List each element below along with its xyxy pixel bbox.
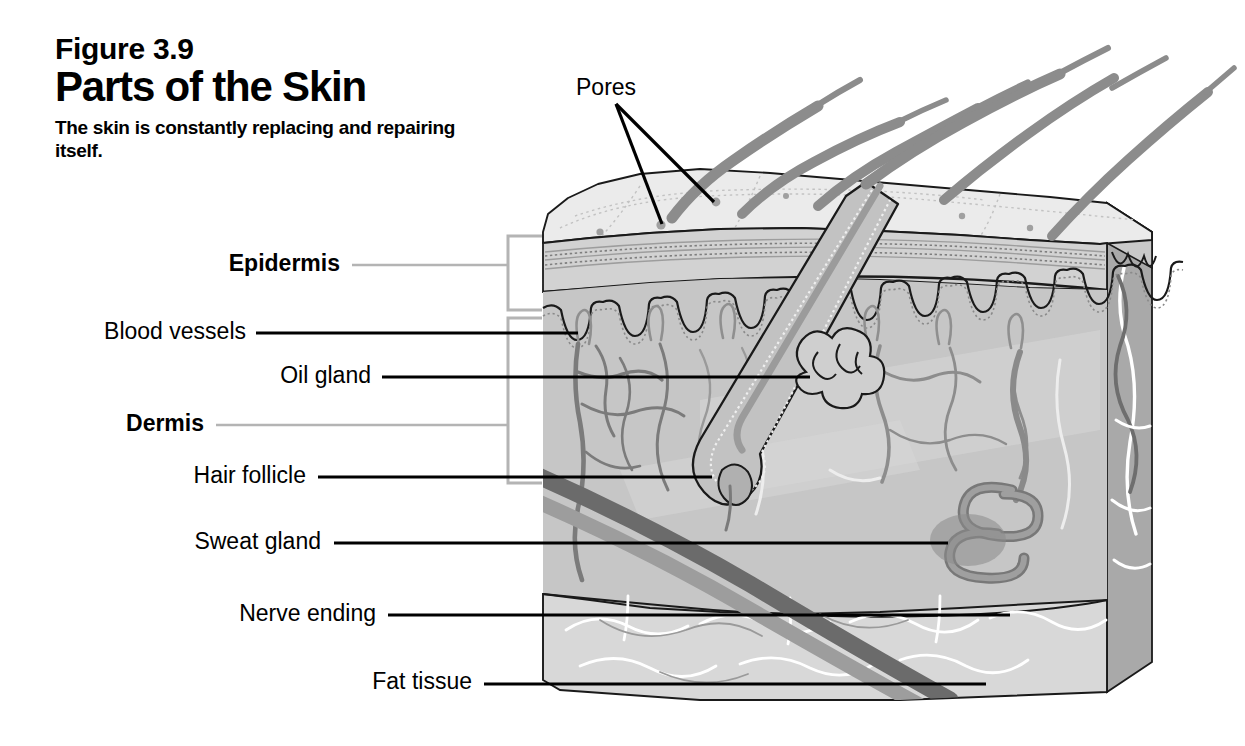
label-nerve-ending: Nerve ending: [206, 602, 376, 625]
label-sweat-gland: Sweat gland: [151, 530, 321, 553]
label-oil-gland: Oil gland: [211, 364, 371, 387]
dermis-bracket: [508, 318, 542, 483]
label-dermis: Dermis: [74, 412, 204, 435]
gray-leader-lines: [216, 265, 508, 425]
epidermis-bracket: [508, 236, 542, 310]
block-side-face: [1107, 203, 1156, 692]
label-blood-vessels: Blood vessels: [46, 320, 246, 343]
label-pores: Pores: [576, 76, 636, 99]
skin-diagram-figure: Figure 3.9 Parts of the Skin The skin is…: [0, 0, 1245, 746]
label-fat-tissue: Fat tissue: [332, 670, 472, 693]
skin-cross-section-illustration: [0, 0, 1245, 746]
label-hair-follicle: Hair follicle: [136, 464, 306, 487]
label-epidermis: Epidermis: [140, 252, 340, 275]
